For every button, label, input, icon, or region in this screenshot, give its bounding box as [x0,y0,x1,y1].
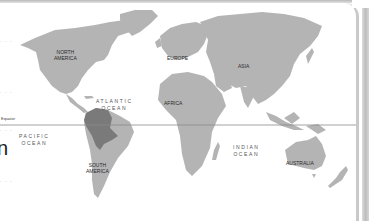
world-map [0,0,360,221]
new-zealand-shape [328,166,348,188]
land-masses [20,10,348,198]
caribbean-islands [84,96,94,99]
label-line: INDIAN [233,144,260,151]
label-line: OCEAN [233,151,260,158]
label-asia: ASIA [238,63,249,69]
scrollbar-strip[interactable] [362,8,369,221]
label-line: OCEAN [19,140,50,147]
label-line: PACIFIC [19,133,50,140]
edge-dots: · · · [0,127,13,133]
edge-dots: · · · [0,38,13,44]
label-line: OCEAN [96,105,133,112]
southeast-asia-islands [266,112,304,130]
label-pacific-ocean: PACIFIC OCEAN [19,133,50,147]
label-line: ATLANTIC [96,98,133,105]
label-europe: EUROPE [167,55,188,61]
tasmania-shape [312,174,316,178]
cropped-edge-text: n [0,138,8,158]
edge-dots: · · · [0,89,13,95]
new-guinea-shape [306,124,326,134]
equator-label: Equator [1,116,15,121]
madagascar-shape [212,142,220,160]
japan-shape [306,48,314,64]
label-indian-ocean: INDIAN OCEAN [233,144,260,158]
india-shape [240,86,254,108]
label-atlantic-ocean: ATLANTIC OCEAN [96,98,133,112]
africa-shape [158,72,226,176]
label-africa: AFRICA [164,100,182,106]
label-south-america: SOUTH AMERICA [86,162,109,174]
label-north-america: NORTH AMERICA [54,49,77,61]
label-australia: AUSTRALIA [286,160,314,166]
label-line: AMERICA [86,168,109,174]
edge-dots: · · · [0,178,13,184]
label-line: AMERICA [54,55,77,61]
